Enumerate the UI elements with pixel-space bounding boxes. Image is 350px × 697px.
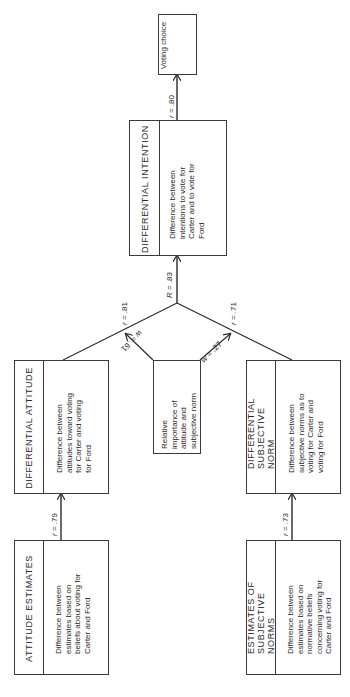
differential-intention-description: Difference between intentions to vote fo… (168, 149, 206, 239)
estimates-of-subjective-norms-title: ESTIMATES OF SUBJECTIVE NORMS (246, 564, 276, 654)
node-relative-importance: Relative importance of attitude and subj… (153, 360, 201, 454)
node-attitude-estimates: ATTITUDE ESTIMATES Difference between es… (14, 540, 109, 675)
voting-choice-label: Voting choice (159, 22, 169, 70)
differential-subjective-norm-description: Difference between subjective norms as t… (287, 377, 325, 473)
label-attitude-to-combined: r = .81 (120, 302, 129, 325)
label-combined-to-intention: R = .83 (165, 272, 174, 298)
attitude-estimates-description: Difference between estimates based on be… (54, 566, 92, 654)
label-norm-to-combined: r = .71 (229, 302, 238, 325)
differential-intention-title: DIFFERENTIAL INTENTION (140, 125, 150, 253)
label-intention-to-choice: r = .80 (167, 95, 176, 118)
relative-importance-label: Relative importance of attitude and subj… (160, 379, 198, 449)
estimates-of-subjective-norms-description: Difference between estimates based on no… (286, 558, 334, 654)
node-estimates-of-subjective-norms: ESTIMATES OF SUBJECTIVE NORMS Difference… (246, 540, 341, 675)
label-estimates-to-attitude: r = .79 (50, 513, 59, 536)
node-voting-choice: Voting choice (158, 14, 197, 75)
attitude-estimates-title: ATTITUDE ESTIMATES (24, 555, 34, 662)
differential-attitude-title: DIFFERENTIAL ATTITUDE (24, 367, 34, 489)
node-differential-subjective-norm: DIFFERENTIAL SUBJECTIVE NORM Difference … (246, 360, 341, 494)
label-estimates-to-norm: r = .73 (281, 513, 290, 536)
node-differential-attitude: DIFFERENTIAL ATTITUDE Difference between… (14, 360, 109, 494)
node-differential-intention: DIFFERENTIAL INTENTION Difference betwee… (129, 120, 227, 256)
differential-attitude-description: Difference between attitudes toward voti… (55, 391, 93, 473)
differential-subjective-norm-title: DIFFERENTIAL SUBJECTIVE NORM (246, 389, 276, 469)
